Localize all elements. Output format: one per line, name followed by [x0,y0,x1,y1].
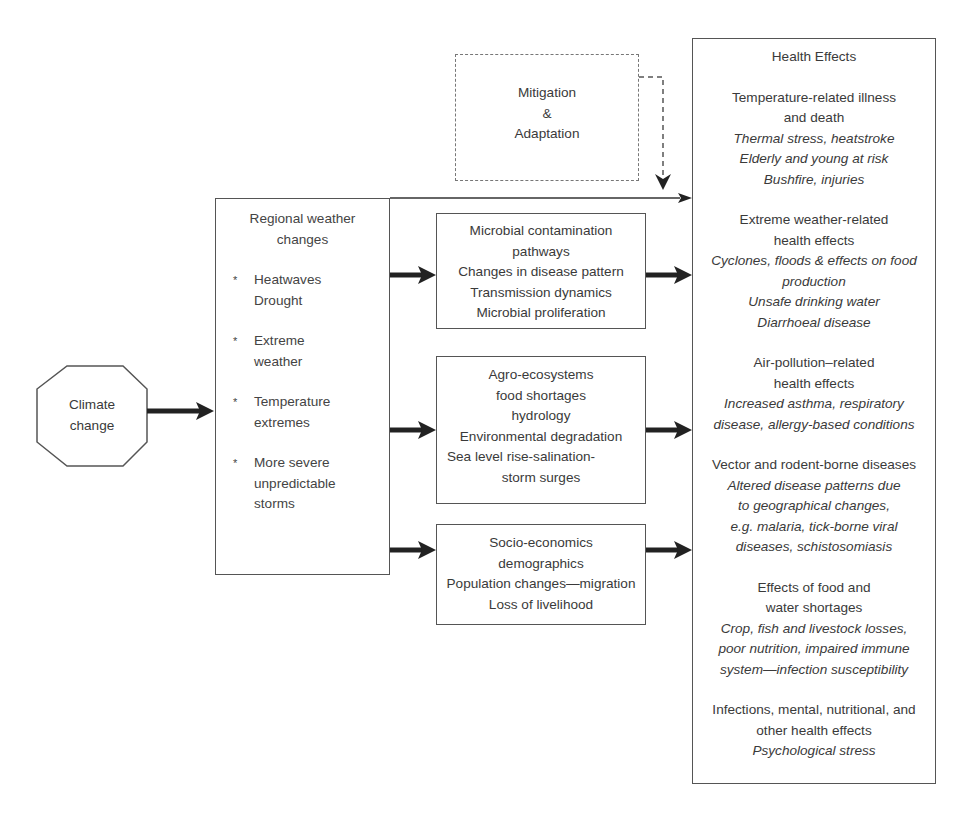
section-detail: Elderly and young at risk [693,149,935,170]
section-detail: Bushfire, injuries [693,170,935,191]
mitigation-line3: Adaptation [456,124,638,145]
arrow-climate-to-regional [147,402,214,420]
health-section-food-water: Effects of food and water shortages Crop… [693,578,935,681]
pathway-line: Microbial proliferation [437,303,645,324]
section-detail: Psychological stress [693,741,935,762]
health-section-air-pollution: Air-pollution–related health effects Inc… [693,353,935,435]
regional-weather-box: Regional weather changes * Heatwaves Dro… [215,198,390,575]
arrow-regional-to-socio [390,541,436,559]
pathway-line: Environmental degradation [437,427,645,448]
section-heading: water shortages [693,598,935,619]
section-detail: production [693,272,935,293]
arrow-regional-to-agro [390,421,436,439]
section-detail: to geographical changes, [693,496,935,517]
regional-title-line1: Regional weather [224,209,381,230]
section-detail: Diarrhoeal disease [693,313,935,334]
section-heading: and death [693,108,935,129]
pathway-line: hydrology [437,406,645,427]
bullet-star: * [233,453,237,474]
pathway-line: Changes in disease pattern [437,262,645,283]
bullet-text: More severe [254,453,381,474]
bullet-star: * [233,331,237,352]
microbial-pathway-box: Microbial contamination pathways Changes… [436,213,646,329]
section-heading: health effects [693,231,935,252]
section-heading: Temperature-related illness [693,88,935,109]
section-detail: Increased asthma, respiratory [693,394,935,415]
bullet-text: Extreme [254,331,381,352]
bullet-text: weather [254,352,381,373]
pathway-line: Transmission dynamics [437,283,645,304]
health-section-vector-borne: Vector and rodent-borne diseases Altered… [693,455,935,558]
section-detail: Crop, fish and livestock losses, [693,619,935,640]
mitigation-adaptation-box: Mitigation & Adaptation [455,54,639,181]
bullet-star: * [233,392,237,413]
pathway-line: storm surges [437,468,645,489]
pathway-line: Socio-economics [437,533,645,554]
section-heading: health effects [693,374,935,395]
bullet-text: Drought [254,291,381,312]
arrow-microbial-to-health [646,266,692,284]
health-section-temperature: Temperature-related illness and death Th… [693,88,935,191]
socio-economics-box: Socio-economics demographics Population … [436,524,646,625]
section-detail: Altered disease patterns due [693,476,935,497]
arrow-socio-to-health [646,541,692,559]
pathway-line: pathways [437,242,645,263]
section-detail: system—infection susceptibility [693,660,935,681]
bullet-text: Temperature [254,392,381,413]
arrow-regional-to-microbial [390,266,436,284]
regional-title: Regional weather changes [224,209,381,250]
section-detail: diseases, schistosomiasis [693,537,935,558]
climate-label-line2: change [37,416,147,437]
section-heading: Infections, mental, nutritional, and [693,700,935,721]
agro-ecosystems-box: Agro-ecosystems food shortages hydrology… [436,356,646,504]
arrow-agro-to-health [646,421,692,439]
bullet-text: unpredictable [254,474,381,495]
section-detail: e.g. malaria, tick-borne viral [693,517,935,538]
mitigation-line1: Mitigation [456,83,638,104]
health-section-other: Infections, mental, nutritional, and oth… [693,700,935,762]
pathway-line: demographics [437,554,645,575]
section-heading: other health effects [693,721,935,742]
section-detail: Unsafe drinking water [693,292,935,313]
section-detail: Thermal stress, heatstroke [693,129,935,150]
section-heading: Vector and rodent-borne diseases [693,455,935,476]
section-heading: Air-pollution–related [693,353,935,374]
section-detail: Cyclones, floods & effects on food [693,251,935,272]
pathway-line: food shortages [437,386,645,407]
pathway-line: Loss of livelihood [437,595,645,616]
section-heading: Effects of food and [693,578,935,599]
regional-bullet-extreme-weather: * Extreme weather [224,331,381,372]
section-heading: Extreme weather-related [693,210,935,231]
bullet-text: storms [254,494,381,515]
health-effects-title: Health Effects [693,47,935,68]
regional-title-line2: changes [224,230,381,251]
arrow-mitigation-dashed [639,77,671,190]
regional-bullet-storms: * More severe unpredictable storms [224,453,381,515]
climate-change-node: Climate change [37,395,147,436]
pathway-line: Agro-ecosystems [437,365,645,386]
section-detail: poor nutrition, impaired immune [693,639,935,660]
pathway-line: Microbial contamination [437,221,645,242]
health-section-extreme-weather: Extreme weather-related health effects C… [693,210,935,333]
bullet-text: Heatwaves [254,270,381,291]
pathway-line: Sea level rise-salination- [437,447,645,468]
regional-bullet-temperature: * Temperature extremes [224,392,381,433]
mitigation-line2: & [456,104,638,125]
bullet-text: extremes [254,413,381,434]
pathway-line: Population changes—migration [437,574,645,595]
regional-bullet-heatwaves: * Heatwaves Drought [224,270,381,311]
section-detail: disease, allergy-based conditions [693,415,935,436]
health-effects-box: Health Effects Temperature-related illne… [692,38,936,784]
bullet-star: * [233,270,237,291]
climate-label-line1: Climate [37,395,147,416]
arrow-regional-top-to-health [390,193,692,203]
